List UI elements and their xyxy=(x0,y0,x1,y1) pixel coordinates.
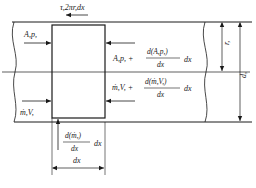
radius-label: r, xyxy=(222,41,231,45)
outlet-pressure-deriv-num: d(A,p,) xyxy=(147,47,168,56)
mass-addition-suffix: dx xyxy=(94,139,102,148)
shear-label: τ,2πr,dx xyxy=(60,3,85,12)
dx-label: dx xyxy=(73,156,81,165)
outlet-momentum-deriv-num: d(ṁ,V,) xyxy=(145,77,167,86)
mass-addition-num: d(ṁ,) xyxy=(65,131,82,140)
outlet-momentum-label: ṁ,V, + xyxy=(112,83,133,92)
outlet-pressure-label: A,p, + xyxy=(112,54,133,63)
outlet-pressure-deriv-den: dx xyxy=(157,60,165,69)
outlet-pressure-suffix: dx xyxy=(184,55,192,64)
inlet-momentum-label: ṁ,V, xyxy=(20,108,34,117)
pipe-control-volume-diagram: τ,2πr,dx A,p, A,p, + d(A,p,) dx dx ṁ,V, … xyxy=(0,0,256,188)
mass-addition-den: dx xyxy=(71,144,79,153)
inlet-pressure-label: A,p, xyxy=(23,30,37,39)
diameter-label: d, xyxy=(239,72,248,78)
control-volume xyxy=(52,25,105,118)
outlet-momentum-suffix: dx xyxy=(184,84,192,93)
outlet-momentum-deriv-den: dx xyxy=(157,90,165,99)
